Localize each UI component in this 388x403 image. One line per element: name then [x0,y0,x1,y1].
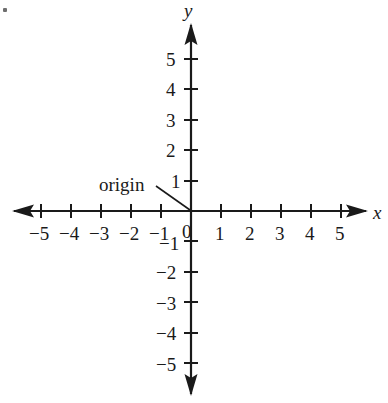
scan-speck [3,8,7,12]
x-tick-label-2: 2 [245,224,255,243]
y-tick-label-5: 5 [166,50,176,69]
axes-svg [0,0,388,403]
x-tick-label-3: 3 [275,224,285,243]
x-tick-label--2: −2 [119,224,139,243]
y-tick-label-3: 3 [166,111,176,130]
x-axis-label: x [373,203,381,222]
y-tick-label--5: −5 [156,355,176,374]
y-tick-label-1: 1 [171,172,181,191]
y-tick-label-4: 4 [166,80,176,99]
y-axis-label: y [184,1,192,20]
x-tick-label-5: 5 [335,224,345,243]
x-tick-label--5: −5 [29,224,49,243]
x-tick-label-4: 4 [305,224,315,243]
y-tick-label-2: 2 [166,141,176,160]
y-tick-label--1: −1 [159,234,179,253]
x-tick-label-1: 1 [215,224,225,243]
x-tick-label--3: −3 [89,224,109,243]
y-tick-label--4: −4 [156,324,176,343]
y-tick-label--2: −2 [156,263,176,282]
origin-annotation-label: origin [99,175,144,194]
x-tick-label-0: 0 [182,222,192,241]
y-tick-label--3: −3 [156,294,176,313]
coordinate-plane-figure: origin y x −5 −4 −3 −2 −1 0 1 2 3 4 5 5 … [0,0,388,403]
x-tick-label--4: −4 [59,224,79,243]
